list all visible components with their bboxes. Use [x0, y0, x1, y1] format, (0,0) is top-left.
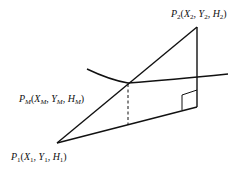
interpolation-diagram: P2(X2, Y2, H2) PM(XM, YM, HM) P1(X1, Y1,…: [0, 0, 247, 171]
label-pm: PM(XM, YM, HM): [18, 93, 84, 106]
terrain-curve: [87, 69, 228, 83]
label-p1: P1(X1, Y1, H1): [10, 151, 67, 164]
label-p2: P2(X2, Y2, H2): [170, 8, 227, 21]
